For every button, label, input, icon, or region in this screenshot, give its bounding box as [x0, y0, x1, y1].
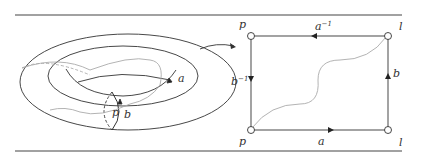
square-curve — [252, 37, 386, 128]
corner-label-bottom-left: p — [239, 135, 246, 148]
label-p: p — [112, 106, 119, 119]
right-edge-arrow — [385, 73, 391, 79]
label-a: a — [178, 72, 185, 85]
torus-hole-upper — [78, 74, 170, 82]
edge-label-left: b−1 — [231, 75, 248, 88]
torus-hole-lower — [66, 69, 176, 96]
corner-label-bottom-right: l — [399, 136, 403, 149]
map-arrow-head — [230, 43, 236, 49]
corner-top-right — [385, 33, 392, 40]
square — [251, 36, 388, 130]
square-edges — [251, 36, 388, 130]
corner-label-top-left: p — [239, 18, 246, 31]
edge-label-top: a−1 — [315, 20, 332, 33]
loop-b-arrow — [118, 99, 122, 104]
corner-bottom-right — [385, 127, 392, 134]
torus-diagram: a p b p l p l a−1 b−1 b a — [0, 0, 421, 162]
top-edge-arrow — [311, 33, 317, 39]
bottom-edge-arrow — [328, 127, 334, 133]
corner-top-left — [248, 33, 255, 40]
label-b: b — [124, 108, 131, 121]
edge-label-bottom: a — [318, 135, 325, 148]
left-edge-arrow — [248, 76, 254, 82]
edge-label-right: b — [393, 67, 400, 80]
corner-bottom-left — [248, 127, 255, 134]
corner-label-top-right: l — [399, 20, 403, 33]
loop-a-arrow — [167, 78, 172, 83]
